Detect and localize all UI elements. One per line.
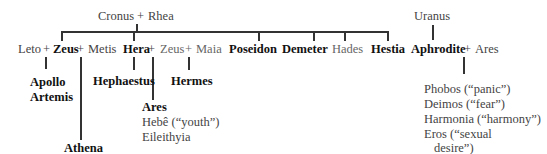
connector-line [313,31,315,41]
node-eros: Eros (“sexual [424,127,492,142]
node-demeter: Demeter [282,42,328,57]
connector-line [133,31,135,41]
node-apollo: Apollo [30,75,65,90]
connector-line [133,57,135,70]
node-eros-cont: desire”) [434,141,474,154]
node-cronus: Cronus [98,9,134,24]
node-eileithyia: Eileithyia [142,130,191,145]
node-rhea: Rhea [148,9,174,24]
node-deimos: Deimos (“fear”) [424,97,505,112]
plus-sign: + [137,9,144,24]
node-leto: Leto [18,42,41,57]
plus-sign: + [43,42,50,57]
node-harmonia: Harmonia (“harmony”) [424,112,541,127]
node-hephaestus: Hephaestus [93,74,155,89]
connector-line [80,57,82,140]
node-artemis: Artemis [30,90,73,105]
node-zeus: Zeus [53,42,79,57]
connector-line [432,25,434,40]
plus-sign: + [185,42,192,57]
node-zeus-2: Zeus [160,42,184,57]
connector-line [61,31,389,33]
node-hebe: Hebê (“youth”) [142,115,219,130]
plus-sign: + [464,42,471,57]
node-ares: Ares [142,100,167,115]
connector-line [188,57,190,70]
node-athena: Athena [64,141,103,154]
node-phobos: Phobos (“panic”) [424,82,510,97]
plus-sign: + [77,42,84,57]
node-hera: Hera [123,42,150,57]
node-poseidon: Poseidon [229,42,277,57]
node-hermes: Hermes [171,74,213,89]
connector-line [387,31,389,41]
connector-line [45,57,47,69]
node-ares-parent: Ares [475,42,499,57]
connector-line [344,31,346,41]
node-aphrodite: Aphrodite [411,42,466,57]
node-uranus: Uranus [414,9,450,24]
node-hestia: Hestia [371,42,405,57]
node-hades: Hades [332,42,363,57]
plus-sign: + [148,42,155,57]
node-maia: Maia [196,42,222,57]
connector-line [463,57,465,74]
connector-line [258,31,260,41]
connector-line [61,31,63,41]
node-metis: Metis [88,42,116,57]
